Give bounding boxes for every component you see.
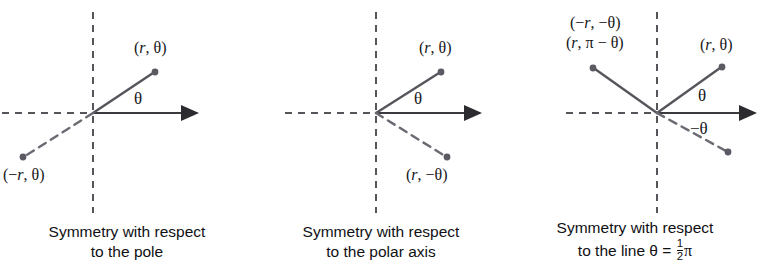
label-point-r-neg-theta: (r, −θ) [406, 166, 448, 184]
caption-line-2-prefix: to the line θ = [578, 242, 676, 259]
ray-to-point-r-theta [376, 73, 439, 113]
ray-to-point-neg-r-theta [25, 113, 93, 156]
caption-line-2: to the polar axis [254, 242, 508, 262]
point-neg-r-neg-theta [590, 65, 597, 72]
label-point-neg-r-neg-theta: (−r, −θ) [570, 14, 621, 32]
label-angle-neg-theta: −θ [690, 119, 708, 138]
caption-line-2: to the pole [0, 242, 254, 262]
label-point-r-theta: (r, θ) [419, 39, 452, 57]
panel-symmetry-polar-axis: (r, θ) (r, −θ) θ Symmetry with respect t… [254, 0, 508, 272]
point-r-neg-theta [444, 154, 451, 161]
ray-to-point-r-neg-theta [376, 113, 445, 156]
fraction-numerator: 1 [677, 238, 683, 250]
polar-symmetry-figure: (r, θ) (−r, θ) θ Symmetry with respect t… [0, 0, 762, 272]
label-point-neg-r-theta: (−r, θ) [3, 166, 45, 184]
panel-symmetry-pole: (r, θ) (−r, θ) θ Symmetry with respect t… [0, 0, 254, 272]
label-point-r-pi-minus-theta: (r, π − θ) [566, 34, 624, 52]
label-angle-theta: θ [134, 89, 142, 108]
ray-to-point-r-theta [657, 68, 720, 113]
caption-line-2-suffix: π [684, 242, 692, 259]
label-point-r-theta: (r, θ) [134, 39, 167, 57]
ray-to-point-neg-r-neg-theta [595, 69, 657, 113]
ray-to-point-r-theta [93, 73, 153, 113]
caption-line-1: Symmetry with respect [508, 218, 762, 238]
fraction-denominator: 2 [677, 250, 683, 263]
point-r-theta [152, 69, 159, 76]
point-r-theta [438, 69, 445, 76]
point-neg-r-theta [20, 154, 27, 161]
caption-line-2: to the line θ = 12π [508, 238, 762, 262]
point-reflected-neg-theta [725, 149, 732, 156]
caption-symmetry-pole: Symmetry with respect to the pole [0, 222, 254, 262]
label-angle-theta: θ [414, 89, 422, 108]
one-half-fraction: 12 [677, 238, 683, 262]
caption-symmetry-line-half-pi: Symmetry with respect to the line θ = 12… [508, 218, 762, 262]
label-angle-theta: θ [698, 86, 706, 105]
caption-line-1: Symmetry with respect [0, 222, 254, 242]
caption-line-1: Symmetry with respect [254, 222, 508, 242]
label-point-r-theta: (r, θ) [700, 36, 733, 54]
panel-symmetry-line-half-pi: (−r, −θ) (r, π − θ) (r, θ) θ −θ Symmetry… [508, 0, 762, 272]
point-r-theta [719, 64, 726, 71]
caption-symmetry-polar-axis: Symmetry with respect to the polar axis [254, 222, 508, 262]
